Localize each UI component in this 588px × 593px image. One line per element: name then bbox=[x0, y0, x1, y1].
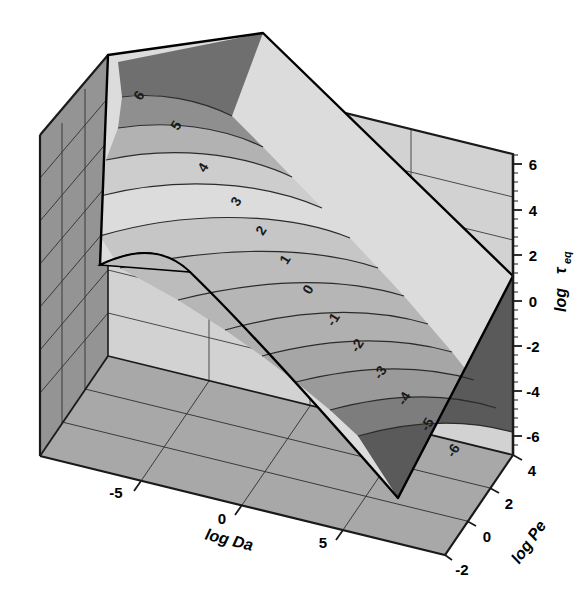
z-tick-label-4: 4 bbox=[529, 202, 538, 219]
z-axis: 6 4 2 0 -2 -4 -6 log τ eq bbox=[513, 154, 573, 455]
z-tick-label-0: 0 bbox=[529, 293, 537, 310]
y-axis-title: log Pe bbox=[508, 517, 550, 566]
x-tick-label-m5: -5 bbox=[109, 484, 122, 501]
z-tick-label-2: 2 bbox=[529, 247, 537, 264]
y-tick-label-0: 0 bbox=[483, 528, 491, 545]
z-tick-label-6: 6 bbox=[529, 156, 537, 173]
y-tick-label-4: 4 bbox=[528, 462, 537, 479]
x-axis-title: log Da bbox=[204, 526, 256, 554]
z-tick-label-m2: -2 bbox=[526, 338, 539, 355]
z-axis-major-ticks bbox=[513, 164, 522, 436]
z-axis-title-subscript: eq bbox=[561, 251, 573, 264]
z-axis-title-main: log bbox=[552, 288, 569, 312]
x-tick-label-5: 5 bbox=[319, 534, 327, 551]
z-tick-label-m6: -6 bbox=[526, 428, 539, 445]
z-tick-label-m4: -4 bbox=[526, 383, 540, 400]
z-axis-title-symbol: τ bbox=[552, 266, 569, 274]
y-tick-label-2: 2 bbox=[505, 495, 513, 512]
figure-container: 6 4 2 0 -2 -4 -6 log τ eq -5 0 5 log Da bbox=[0, 0, 588, 593]
surface-plot-svg: 6 4 2 0 -2 -4 -6 log τ eq -5 0 5 log Da bbox=[0, 0, 588, 593]
z-axis-title-group: log τ eq bbox=[552, 251, 573, 312]
x-tick-label-0: 0 bbox=[218, 510, 226, 527]
y-tick-label-m2: -2 bbox=[455, 561, 468, 578]
